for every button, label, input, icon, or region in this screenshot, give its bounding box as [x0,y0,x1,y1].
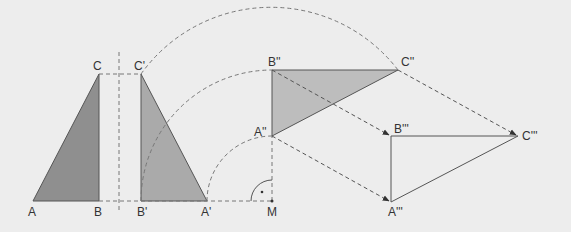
right-angle-dot [261,191,264,194]
center-point-m [271,200,274,203]
label-c2: C'' [401,55,414,69]
label-b2: B'' [268,55,281,69]
label-a1: A' [201,205,211,219]
triangle-abc [33,74,99,201]
label-a2: A'' [254,125,267,139]
geometry-diagram: A B C B' A' C' M B'' C'' A'' B''' C''' A… [0,0,571,232]
label-a3: A''' [388,205,403,219]
label-b: B [94,205,102,219]
label-a: A [28,205,36,219]
label-c3: C''' [522,129,538,143]
label-c1: C' [134,59,145,73]
label-m: M [267,205,277,219]
triangle-a2b2c2 [272,70,398,136]
label-c: C [93,59,102,73]
right-angle-mark [251,180,272,201]
triangle-a3b3c3 [391,136,518,202]
label-b3: B''' [394,122,409,136]
label-b1: B' [137,205,147,219]
